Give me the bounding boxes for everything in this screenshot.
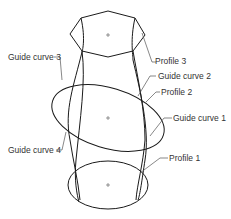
loft-drawing [0,0,231,219]
profile-3-shape [70,11,145,57]
center-mark-2 [106,116,110,120]
label-guide-curve-4: Guide curve 4 [8,145,61,155]
guide-curve-1 [133,51,145,200]
leader-profile-3 [142,33,156,62]
center-mark-1 [106,183,110,187]
label-profile-3: Profile 3 [155,56,186,66]
guide-curve-2 [132,18,146,200]
label-guide-curve-1: Guide curve 1 [173,113,226,123]
label-profile-1: Profile 1 [169,153,200,163]
center-mark-3 [106,33,110,37]
label-profile-2: Profile 2 [161,87,192,97]
label-guide-curve-3: Guide curve 3 [8,52,61,62]
loft-diagram: Profile 3 Guide curve 3 Guide curve 2 Pr… [0,0,231,219]
label-guide-curve-2: Guide curve 2 [158,71,211,81]
leader-guide-curve-1 [150,118,172,136]
leader-profile-2 [146,92,160,102]
